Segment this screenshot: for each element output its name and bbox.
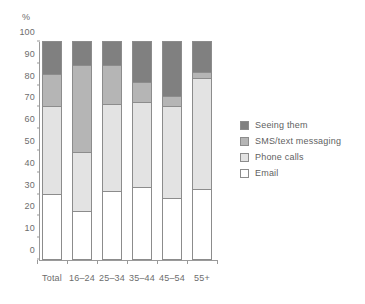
x-axis-tick-mark: [127, 260, 128, 264]
legend-item[interactable]: Seeing them: [240, 117, 341, 133]
bar-segment[interactable]: [132, 102, 152, 188]
y-axis-tick-mark: [37, 62, 40, 63]
y-axis-tick-label: 10: [25, 223, 40, 233]
legend-item-label: Seeing them: [255, 120, 308, 130]
bar-group[interactable]: 35–44: [132, 42, 152, 260]
bar-segment[interactable]: [162, 41, 182, 97]
bar-segment[interactable]: [102, 191, 122, 260]
y-axis-tick-mark: [37, 41, 40, 42]
bar-segment[interactable]: [192, 41, 212, 73]
x-axis-category-label: 45–54: [159, 273, 185, 283]
bar-stack: [132, 42, 152, 260]
bar-group[interactable]: 16–24: [72, 42, 92, 260]
legend-item[interactable]: Email: [240, 165, 341, 181]
x-axis-category-label: Total: [42, 273, 62, 283]
bar-segment[interactable]: [132, 41, 152, 83]
legend-item[interactable]: SMS/text messaging: [240, 133, 341, 149]
x-axis-category-label: 55+: [194, 273, 210, 283]
x-axis-tick-mark: [157, 260, 158, 264]
bar-segment[interactable]: [192, 78, 212, 190]
bar-segment[interactable]: [162, 106, 182, 199]
legend-item-label: Email: [255, 168, 279, 178]
y-axis-tick-label: 20: [25, 201, 40, 211]
legend-swatch-icon: [240, 153, 249, 162]
y-axis-tick-label: 0: [30, 245, 40, 255]
y-axis-tick-mark: [37, 106, 40, 107]
legend-swatch-icon: [240, 137, 249, 146]
stacked-bar-chart: % 1009080706050403020100 Total16–2425–34…: [0, 0, 365, 304]
y-axis-tick-label: 80: [25, 71, 40, 81]
bar-segment[interactable]: [42, 194, 62, 260]
y-axis-tick-label: 60: [25, 114, 40, 124]
y-axis-tick-mark: [37, 215, 40, 216]
x-axis-tick-mark: [217, 260, 218, 264]
y-axis-tick-mark: [37, 193, 40, 194]
bar-segment[interactable]: [72, 41, 92, 66]
bar-stack: [102, 42, 122, 260]
y-axis-tick-label: 70: [25, 92, 40, 102]
bar-stack: [162, 42, 182, 260]
bar-segment[interactable]: [132, 82, 152, 103]
bar-stack: [72, 42, 92, 260]
bar-group[interactable]: Total: [42, 42, 62, 260]
x-axis-category-label: 25–34: [99, 273, 125, 283]
bar-stack: [42, 42, 62, 260]
legend-swatch-icon: [240, 169, 249, 178]
plot-area: 1009080706050403020100 Total16–2425–3435…: [40, 42, 216, 260]
bar-segment[interactable]: [162, 198, 182, 260]
y-axis-tick-mark: [37, 84, 40, 85]
x-axis-tick-mark: [97, 260, 98, 264]
bar-group[interactable]: 45–54: [162, 42, 182, 260]
bar-segment[interactable]: [72, 211, 92, 260]
x-axis-category-label: 35–44: [129, 273, 155, 283]
bar-group[interactable]: 25–34: [102, 42, 122, 260]
y-axis-tick-mark: [37, 171, 40, 172]
y-axis-tick-label: 40: [25, 158, 40, 168]
y-axis-tick-label: 100: [19, 27, 40, 37]
x-axis-tick-mark: [67, 260, 68, 264]
bar-segment[interactable]: [132, 187, 152, 260]
y-axis-tick-label: 90: [25, 49, 40, 59]
x-axis-tick-mark: [187, 260, 188, 264]
bar-segment[interactable]: [42, 74, 62, 108]
y-axis-tick-mark: [37, 128, 40, 129]
bar-group[interactable]: 55+: [192, 42, 212, 260]
bar-segment[interactable]: [102, 104, 122, 192]
bar-segment[interactable]: [72, 152, 92, 212]
legend-item-label: Phone calls: [255, 152, 304, 162]
bar-stack: [192, 42, 212, 260]
y-axis-tick-mark: [37, 237, 40, 238]
bar-segment[interactable]: [42, 106, 62, 194]
bar-segment[interactable]: [72, 65, 92, 153]
chart-legend: Seeing themSMS/text messagingPhone calls…: [240, 117, 341, 181]
x-axis-tick-mark: [37, 260, 38, 264]
legend-swatch-icon: [240, 121, 249, 130]
legend-item[interactable]: Phone calls: [240, 149, 341, 165]
bar-segment[interactable]: [102, 65, 122, 105]
bar-segment[interactable]: [162, 96, 182, 108]
bar-segment[interactable]: [102, 41, 122, 66]
y-axis-tick-label: 50: [25, 136, 40, 146]
legend-item-label: SMS/text messaging: [255, 136, 341, 146]
bar-segment[interactable]: [192, 189, 212, 260]
y-axis-tick-label: 30: [25, 180, 40, 190]
bar-segment[interactable]: [42, 41, 62, 75]
x-axis-category-label: 16–24: [69, 273, 95, 283]
bar-segment[interactable]: [192, 72, 212, 80]
y-axis-tick-mark: [37, 150, 40, 151]
y-axis-unit-label: %: [22, 12, 30, 22]
x-axis-line: [39, 260, 217, 261]
